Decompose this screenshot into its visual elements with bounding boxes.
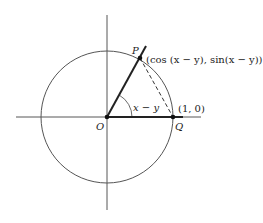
angle-arc	[120, 95, 133, 117]
label-o: O	[96, 121, 104, 132]
point-q	[171, 115, 176, 120]
label-p-coords: (cos (x − y), sin(x − y))	[146, 54, 263, 65]
label-q: Q	[175, 121, 183, 132]
unit-circle-diagram: P (cos (x − y), sin(x − y)) x − y (1, 0)…	[0, 0, 263, 223]
point-o	[105, 115, 110, 120]
label-q-coords: (1, 0)	[178, 103, 205, 114]
point-p	[138, 56, 143, 61]
label-p: P	[131, 45, 139, 56]
label-angle: x − y	[133, 102, 159, 113]
